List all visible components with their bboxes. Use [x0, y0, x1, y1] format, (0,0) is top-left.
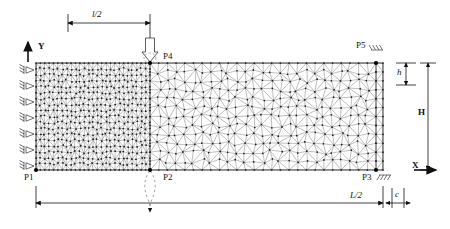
p3-support-hatch	[377, 175, 391, 180]
label-p5: P5	[356, 41, 366, 50]
mesh-diagram-svg	[0, 0, 450, 229]
label-y-axis: Y	[38, 42, 45, 51]
label-p3: P3	[362, 173, 372, 182]
label-p4: P4	[163, 52, 173, 61]
label-bottom-span: L/2	[350, 191, 362, 200]
dimension-top-span	[68, 14, 150, 42]
label-edge-small: c	[395, 190, 399, 199]
label-p2: P2	[163, 173, 173, 182]
label-height-small: h	[397, 68, 402, 77]
label-height-total: H	[418, 108, 425, 117]
label-x-axis: X	[412, 161, 419, 170]
left-edge-supports	[20, 64, 35, 170]
mesh-region-edge-strip	[376, 63, 383, 170]
p5-support-hatch	[369, 45, 383, 50]
figure-canvas: l/2 Y X P4 P5 P1 P2 P3 h H L/2 c	[0, 0, 450, 229]
mesh-outline	[36, 63, 383, 170]
dimension-bottom-span	[36, 186, 383, 208]
label-top-span: l/2	[92, 10, 102, 19]
label-p1: P1	[24, 173, 34, 182]
p2-symmetry-dashed	[145, 171, 155, 212]
